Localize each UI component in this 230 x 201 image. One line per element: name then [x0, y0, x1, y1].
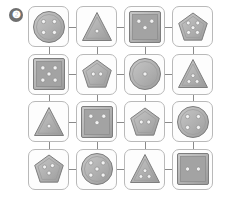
shape-dot — [53, 78, 57, 82]
connector-vertical — [97, 47, 98, 54]
shape-dot — [53, 66, 57, 70]
shape-dot — [52, 19, 56, 23]
shape-dot — [42, 165, 46, 169]
grid-cell-r3c4[interactable] — [172, 101, 213, 142]
circle-icon — [80, 152, 114, 186]
shape-dot — [94, 167, 98, 171]
grid-cell-r1c1[interactable] — [28, 6, 69, 47]
grid-cell-r4c4[interactable] — [172, 149, 213, 190]
shape-container — [77, 7, 116, 46]
connector-horizontal — [117, 74, 124, 75]
shape-container — [29, 7, 68, 46]
connector-horizontal — [165, 74, 172, 75]
shape-grid — [28, 6, 224, 198]
grid-cell-r3c1[interactable] — [28, 101, 69, 142]
connector-horizontal — [117, 169, 124, 170]
shape-container — [125, 55, 164, 94]
shape-dot — [191, 74, 195, 78]
shape-dot — [185, 125, 189, 129]
shape-dot — [41, 30, 45, 34]
square-icon — [32, 57, 66, 91]
connector-vertical — [145, 47, 146, 54]
square-icon — [128, 10, 162, 44]
shape-dot — [52, 30, 56, 34]
connector-horizontal — [69, 74, 76, 75]
shape-dot — [101, 161, 105, 165]
grid-cell-r4c3[interactable] — [124, 149, 165, 190]
shape-container — [125, 7, 164, 46]
shape-dot — [191, 25, 195, 29]
shape-dot — [186, 20, 190, 24]
grid-cell-r3c2[interactable] — [76, 101, 117, 142]
shape-dot — [88, 161, 92, 165]
shape-dot — [195, 30, 199, 34]
shape-dot — [196, 125, 200, 129]
shape-dot — [185, 167, 189, 171]
grid-cell-r4c2[interactable] — [76, 149, 117, 190]
grid-cell-r4c1[interactable] — [28, 149, 69, 190]
triangle-icon — [32, 105, 66, 139]
shape-container — [77, 150, 116, 189]
shape-dot — [40, 66, 44, 70]
shape-dot — [139, 120, 143, 124]
connector-horizontal — [117, 27, 124, 28]
connector-vertical — [97, 142, 98, 149]
shape-dot — [47, 171, 51, 175]
grid-cell-r2c1[interactable] — [28, 54, 69, 95]
shape-dot — [41, 19, 45, 23]
connector-vertical — [49, 47, 50, 54]
shape-container — [125, 150, 164, 189]
shape-container — [77, 55, 116, 94]
shape-dot — [149, 19, 153, 23]
connector-horizontal — [117, 122, 124, 123]
triangle-icon — [128, 152, 162, 186]
step-number-badge: ❷ — [9, 8, 23, 22]
shape-dot — [88, 114, 92, 118]
shape-dot — [101, 173, 105, 177]
shape-dot — [185, 114, 189, 118]
shape-dot — [186, 30, 190, 34]
connector-vertical — [145, 142, 146, 149]
shape-dot — [136, 19, 140, 23]
circle-icon — [176, 105, 210, 139]
grid-cell-r1c4[interactable] — [172, 6, 213, 47]
grid-cell-r2c3[interactable] — [124, 54, 165, 95]
shape-container — [77, 102, 116, 141]
connector-vertical — [193, 142, 194, 149]
shape-dot — [139, 175, 143, 179]
pentagon-icon — [32, 152, 66, 186]
grid-cell-r2c4[interactable] — [172, 54, 213, 95]
connector-horizontal — [69, 122, 76, 123]
shape-container — [29, 102, 68, 141]
shape-dot — [95, 29, 99, 33]
shape-container — [173, 55, 212, 94]
connector-horizontal — [69, 27, 76, 28]
shape-container — [29, 55, 68, 94]
grid-cell-r1c2[interactable] — [76, 6, 117, 47]
grid-cell-r2c2[interactable] — [76, 54, 117, 95]
shape-dot — [187, 80, 191, 84]
connector-horizontal — [69, 169, 76, 170]
shape-container — [173, 7, 212, 46]
shape-dot — [147, 175, 151, 179]
triangle-icon — [80, 10, 114, 44]
shape-dot — [196, 167, 200, 171]
pentagon-icon — [80, 57, 114, 91]
shape-dot — [143, 169, 147, 173]
pentagon-icon — [128, 105, 162, 139]
triangle-icon — [176, 57, 210, 91]
grid-cell-r3c3[interactable] — [124, 101, 165, 142]
shape-dot — [50, 164, 54, 168]
shape-dot — [196, 114, 200, 118]
shape-dot — [98, 72, 102, 76]
shape-container — [173, 150, 212, 189]
shape-dot — [40, 78, 44, 82]
shape-dot — [91, 72, 95, 76]
shape-dot — [195, 80, 199, 84]
connector-horizontal — [165, 169, 172, 170]
grid-cell-r1c3[interactable] — [124, 6, 165, 47]
connector-vertical — [193, 47, 194, 54]
shape-dot — [47, 124, 51, 128]
square-icon — [176, 152, 210, 186]
pentagon-icon — [176, 10, 210, 44]
